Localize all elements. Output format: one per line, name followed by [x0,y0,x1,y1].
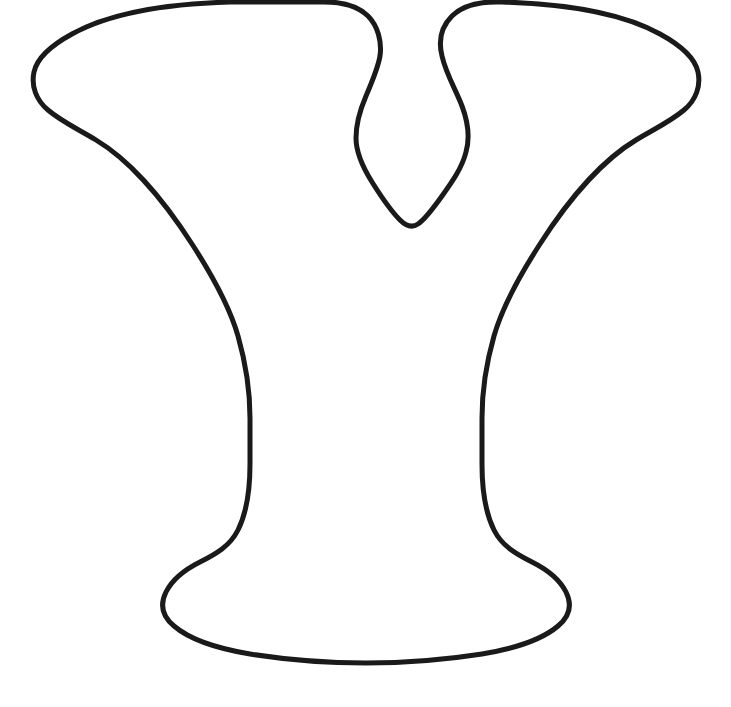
drawing-canvas [0,0,731,707]
letter-y-outline-svg [0,0,731,707]
